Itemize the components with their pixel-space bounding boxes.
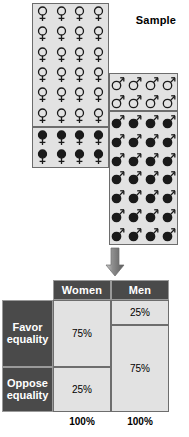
- women-solid-symbol-grid: [33, 128, 108, 167]
- male-symbol: [111, 152, 125, 167]
- male-symbol: [145, 76, 159, 91]
- male-symbol: [128, 114, 142, 129]
- male-symbol: [111, 208, 125, 223]
- female-symbol: [73, 67, 86, 83]
- cell-men-favor-equality: 25%: [111, 300, 169, 325]
- male-symbol: [145, 227, 159, 242]
- female-symbol: [36, 47, 49, 63]
- female-symbol: [73, 47, 86, 63]
- male-symbol: [111, 133, 125, 148]
- total-men: 100%: [111, 416, 169, 427]
- female-symbol: [73, 149, 86, 165]
- female-symbol: [73, 87, 86, 103]
- male-symbol: [128, 76, 142, 91]
- female-symbol: [73, 130, 86, 146]
- male-symbol: [145, 189, 159, 204]
- row-label-oppose-line2: equality: [7, 390, 49, 402]
- female-symbol: [55, 87, 68, 103]
- male-symbol: [128, 208, 142, 223]
- female-symbol: [36, 26, 49, 42]
- male-symbol: [128, 189, 142, 204]
- female-symbol: [55, 26, 68, 42]
- male-symbol: [162, 94, 176, 109]
- male-symbol: [128, 170, 142, 185]
- male-symbol: [128, 94, 142, 109]
- female-symbol: [55, 149, 68, 165]
- men-solid-symbol-grid: [110, 112, 177, 244]
- female-symbol: [55, 130, 68, 146]
- cell-women-oppose-equality: 25%: [53, 367, 111, 412]
- women-solid-symbols-panel: [32, 127, 109, 168]
- female-symbol: [92, 149, 105, 165]
- male-symbol: [128, 227, 142, 242]
- female-symbol: [55, 108, 68, 124]
- table-header-men: Men: [111, 280, 169, 300]
- male-symbol: [162, 76, 176, 91]
- female-symbol: [36, 67, 49, 83]
- men-solid-symbols-panel: [109, 111, 178, 245]
- sample-label: Sample: [126, 14, 186, 26]
- row-label-favor-equality: Favor equality: [2, 300, 53, 367]
- men-open-symbols-panel: [109, 73, 178, 111]
- row-label-oppose-line1: Oppose: [7, 378, 48, 390]
- women-open-symbol-grid: [33, 4, 108, 126]
- male-symbol: [145, 208, 159, 223]
- male-symbol: [145, 94, 159, 109]
- female-symbol: [36, 149, 49, 165]
- female-symbol: [36, 6, 49, 22]
- table-header-women: Women: [53, 280, 111, 300]
- male-symbol: [162, 114, 176, 129]
- female-symbol: [73, 6, 86, 22]
- male-symbol: [111, 114, 125, 129]
- female-symbol: [92, 26, 105, 42]
- male-symbol: [162, 227, 176, 242]
- male-symbol: [162, 189, 176, 204]
- female-symbol: [73, 26, 86, 42]
- female-symbol: [73, 108, 86, 124]
- female-symbol: [55, 67, 68, 83]
- male-symbol: [162, 152, 176, 167]
- cell-men-oppose-equality: 75%: [111, 325, 169, 412]
- female-symbol: [55, 47, 68, 63]
- cell-women-favor-equality: 75%: [53, 300, 111, 367]
- male-symbol: [145, 133, 159, 148]
- women-open-symbols-panel: [32, 3, 109, 127]
- female-symbol: [92, 108, 105, 124]
- male-symbol: [111, 227, 125, 242]
- male-symbol: [128, 152, 142, 167]
- female-symbol: [36, 108, 49, 124]
- row-label-favor-line2: equality: [7, 334, 49, 346]
- female-symbol: [92, 87, 105, 103]
- row-label-oppose-equality: Oppose equality: [2, 367, 53, 412]
- female-symbol: [92, 6, 105, 22]
- female-symbol: [92, 130, 105, 146]
- male-symbol: [162, 133, 176, 148]
- female-symbol: [92, 67, 105, 83]
- male-symbol: [145, 170, 159, 185]
- row-label-favor-line1: Favor: [13, 322, 43, 334]
- male-symbol: [128, 133, 142, 148]
- male-symbol: [145, 114, 159, 129]
- male-symbol: [111, 189, 125, 204]
- total-women: 100%: [53, 416, 111, 427]
- male-symbol: [162, 170, 176, 185]
- male-symbol: [145, 152, 159, 167]
- female-symbol: [36, 130, 49, 146]
- male-symbol: [111, 170, 125, 185]
- male-symbol: [111, 76, 125, 91]
- female-symbol: [92, 47, 105, 63]
- female-symbol: [55, 6, 68, 22]
- men-open-symbol-grid: [110, 74, 177, 110]
- down-arrow-icon: [100, 247, 130, 277]
- male-symbol: [111, 94, 125, 109]
- male-symbol: [162, 208, 176, 223]
- female-symbol: [36, 87, 49, 103]
